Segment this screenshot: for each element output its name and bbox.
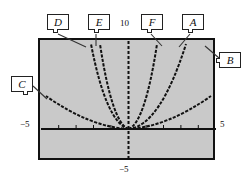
- plot-canvas: [40, 40, 217, 162]
- curve-label-F[interactable]: F: [141, 14, 163, 30]
- curve-label-C[interactable]: C: [11, 76, 33, 92]
- y-axis-max-label: 10: [120, 18, 129, 28]
- x-axis-min-label: −5: [20, 119, 30, 129]
- callout-tail-icon: [188, 29, 193, 33]
- callout-tail-icon: [147, 29, 152, 33]
- callout-tail-icon: [94, 29, 99, 33]
- y-axis-min-label: −5: [119, 164, 129, 174]
- graph-screenshot: D E F A B C 10 −5 5 −5: [0, 0, 251, 182]
- callout-tail-icon: [216, 58, 220, 63]
- curve-label-C-text: C: [18, 78, 25, 90]
- curve-label-F-text: F: [149, 16, 156, 28]
- curve-label-E[interactable]: E: [88, 14, 110, 30]
- plot-frame: [38, 38, 215, 160]
- curve-label-D-text: D: [54, 16, 62, 28]
- curve-label-A[interactable]: A: [182, 14, 204, 30]
- curve-label-E-text: E: [96, 16, 103, 28]
- curve-label-B[interactable]: B: [219, 52, 241, 68]
- curve-label-A-text: A: [190, 16, 197, 28]
- callout-tail-icon: [53, 29, 58, 33]
- curve-label-D[interactable]: D: [47, 14, 69, 30]
- x-axis-max-label: 5: [220, 119, 225, 129]
- curve-D: [91, 44, 129, 129]
- curve-label-B-text: B: [227, 54, 234, 66]
- callout-tail-icon: [23, 91, 28, 95]
- curve-F: [129, 44, 158, 129]
